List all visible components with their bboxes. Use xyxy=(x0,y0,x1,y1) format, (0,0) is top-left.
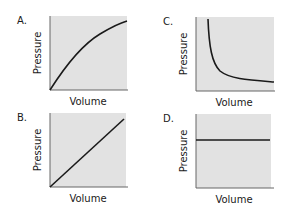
plot-area-d xyxy=(196,114,271,188)
curve-c xyxy=(196,17,274,91)
line-d xyxy=(196,114,271,188)
curve-a xyxy=(50,16,127,90)
y-axis-label-c: Pressure xyxy=(178,33,189,76)
y-axis-label-a: Pressure xyxy=(32,32,43,75)
plot-area-c xyxy=(196,17,274,91)
chart-panel-b: B. Pressure Volume xyxy=(0,97,144,208)
plot-area-a xyxy=(50,16,127,90)
chart-panel-c: C. Pressure Volume xyxy=(146,1,289,112)
chart-panel-d: D. Pressure Volume xyxy=(146,98,289,209)
panel-label-a: A. xyxy=(17,15,27,26)
y-axis-label-d: Pressure xyxy=(178,130,189,173)
line-b xyxy=(50,113,126,187)
plot-area-b xyxy=(50,113,126,187)
x-axis-label-b: Volume xyxy=(69,193,106,204)
y-axis-label-b: Pressure xyxy=(32,129,43,172)
panel-label-b: B. xyxy=(17,112,27,123)
panel-label-c: C. xyxy=(163,16,173,27)
chart-panel-a: A. Pressure Volume xyxy=(0,0,144,111)
panel-label-d: D. xyxy=(163,113,174,124)
x-axis-label-d: Volume xyxy=(215,194,252,205)
